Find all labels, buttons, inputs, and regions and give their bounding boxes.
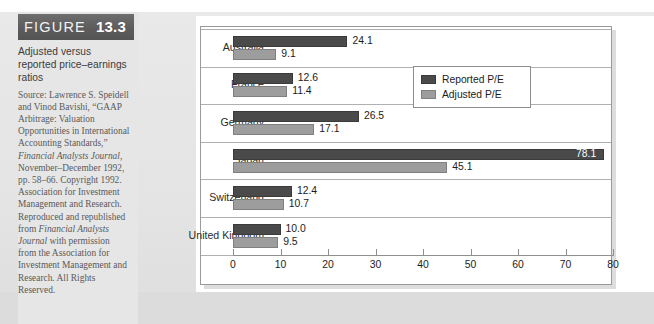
source-line-5: Standards,” bbox=[64, 138, 107, 148]
bar-france-adjusted bbox=[233, 86, 287, 97]
source-line-9: Copyright 1992. bbox=[60, 175, 121, 185]
bar-united-kingdom-adjusted bbox=[233, 237, 278, 248]
bar-value-united-kingdom-reported: 10.0 bbox=[286, 223, 306, 234]
chart-plot-area: Australia24.19.1France12.611.4Germany26.… bbox=[201, 27, 611, 284]
bar-value-australia-reported: 24.1 bbox=[352, 35, 372, 46]
source-line-7: November–December bbox=[18, 163, 101, 173]
x-axis-tick-label: 40 bbox=[417, 259, 429, 270]
bar-value-france-reported: 12.6 bbox=[298, 72, 318, 83]
bar-switzerland-reported bbox=[233, 186, 292, 197]
bar-japan-reported bbox=[233, 149, 604, 160]
figure-caption-column: FIGURE 13.3 Adjusted versus reported pri… bbox=[18, 14, 134, 296]
x-axis-tick-label: 80 bbox=[607, 259, 619, 270]
x-axis-tick bbox=[281, 249, 282, 256]
x-axis-tick-label: 20 bbox=[322, 259, 334, 270]
x-axis-tick-label: 30 bbox=[370, 259, 382, 270]
figure-title: Adjusted versus reported price–earnings … bbox=[18, 45, 130, 85]
x-axis-tick bbox=[518, 249, 519, 256]
bar-switzerland-adjusted bbox=[233, 199, 284, 210]
source-line-12: Reproduced and bbox=[18, 212, 79, 222]
source-line-6: Financial Analysts Journal, bbox=[18, 151, 122, 161]
legend-item-adjusted: Adjusted P/E bbox=[421, 87, 530, 102]
row-separator bbox=[201, 29, 611, 30]
x-axis-tick bbox=[328, 249, 329, 256]
source-line-0: Source: Lawrence S. bbox=[18, 90, 96, 100]
x-axis-tick-label: 70 bbox=[560, 259, 572, 270]
legend-label-adjusted: Adjusted P/E bbox=[442, 89, 502, 100]
bar-value-france-adjusted: 11.4 bbox=[292, 85, 311, 96]
bar-value-germany-reported: 26.5 bbox=[364, 110, 384, 121]
legend-swatch-reported-icon bbox=[421, 75, 436, 84]
source-line-10: Association for Investment bbox=[18, 187, 120, 197]
chart-frame: Australia24.19.1France12.611.4Germany26.… bbox=[200, 26, 612, 285]
x-axis-tick bbox=[566, 249, 567, 256]
bar-australia-reported bbox=[233, 36, 347, 47]
bar-germany-reported bbox=[233, 111, 359, 122]
bar-value-switzerland-adjusted: 10.7 bbox=[289, 198, 309, 209]
figure-banner-number: 13.3 bbox=[96, 18, 126, 35]
x-axis-tick bbox=[233, 249, 234, 256]
bar-australia-adjusted bbox=[233, 49, 276, 60]
row-separator bbox=[201, 179, 611, 180]
chart-legend: Reported P/E Adjusted P/E bbox=[413, 66, 531, 108]
bar-value-japan-adjusted: 45.1 bbox=[452, 161, 472, 172]
x-axis-tick bbox=[471, 249, 472, 256]
x-axis-tick-label: 0 bbox=[230, 259, 236, 270]
x-axis-tick bbox=[613, 249, 614, 256]
row-separator bbox=[201, 67, 611, 68]
bar-japan-adjusted bbox=[233, 162, 447, 173]
bar-value-australia-adjusted: 9.1 bbox=[281, 48, 295, 59]
row-separator bbox=[201, 142, 611, 143]
row-separator bbox=[201, 217, 611, 218]
bar-value-united-kingdom-adjusted: 9.5 bbox=[283, 236, 297, 247]
figure-page: FIGURE 13.3 Adjusted versus reported pri… bbox=[0, 0, 654, 324]
bar-united-kingdom-reported bbox=[233, 224, 281, 235]
x-axis-tick-label: 10 bbox=[275, 259, 287, 270]
figure-number-banner: FIGURE 13.3 bbox=[18, 14, 134, 40]
legend-swatch-adjusted-icon bbox=[421, 90, 436, 99]
source-line-11: Management and Research. bbox=[18, 199, 122, 209]
figure-source-note: Source: Lawrence S. Speidell and Vinod B… bbox=[18, 89, 130, 296]
bar-value-japan-reported: 78.1 bbox=[576, 148, 596, 159]
x-axis-tick bbox=[423, 249, 424, 256]
bar-germany-adjusted bbox=[233, 124, 314, 135]
x-axis-tick-label: 60 bbox=[512, 259, 524, 270]
figure-banner-word: FIGURE bbox=[24, 19, 86, 35]
row-separator bbox=[201, 104, 611, 105]
legend-item-reported: Reported P/E bbox=[421, 72, 530, 87]
bar-value-switzerland-reported: 12.4 bbox=[297, 185, 317, 196]
x-axis-tick-label: 50 bbox=[465, 259, 477, 270]
bar-value-germany-adjusted: 17.1 bbox=[319, 123, 339, 134]
bar-france-reported bbox=[233, 73, 293, 84]
legend-label-reported: Reported P/E bbox=[442, 74, 504, 85]
x-axis-tick bbox=[376, 249, 377, 256]
